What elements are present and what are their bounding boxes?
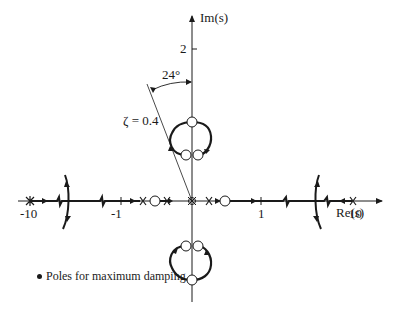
- legend-label: Poles for maximum damping: [46, 269, 186, 284]
- angle-arrow-right-icon: [186, 79, 192, 85]
- locus-real-right: [226, 197, 352, 205]
- angle-label: 24°: [162, 68, 180, 81]
- x-tick-label-minus-1: -1: [111, 207, 122, 220]
- imag-axis-arrow-icon: [189, 15, 195, 22]
- x-tick-label-1: 1: [258, 207, 265, 220]
- damping-label: ζ = 0.4: [123, 114, 158, 127]
- zero-circle-icon: [150, 196, 160, 206]
- angle-arrow-left-icon: [150, 87, 156, 93]
- legend: Poles for maximum damping: [37, 269, 186, 284]
- y-axis-label: Im(s): [200, 11, 228, 24]
- zero-circle-icon: [220, 196, 230, 206]
- damping-line: [147, 84, 192, 201]
- filled-dot-icon: [37, 274, 42, 279]
- y-tick-label-2: 2: [180, 42, 187, 55]
- x-tick-label-10: 10: [349, 207, 362, 220]
- real-axis-arrow-icon: [376, 198, 383, 204]
- x-tick-label-minus-10: -10: [20, 207, 37, 220]
